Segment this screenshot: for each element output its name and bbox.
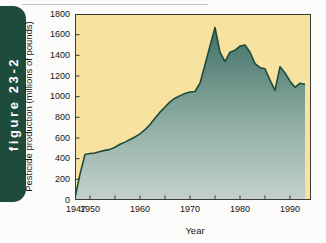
x-axis-title: Year xyxy=(75,225,315,236)
y-tick-label: 1600 xyxy=(36,30,70,39)
x-tick-label: 1950 xyxy=(80,204,100,214)
x-tick-label: 1970 xyxy=(180,204,200,214)
y-tick-label: 1800 xyxy=(36,10,70,19)
figure-container: figure 23-2 Pesticide production (millio… xyxy=(0,0,326,243)
figure-tab-label: figure 23-2 xyxy=(6,57,21,151)
y-tick-label: 1200 xyxy=(36,72,70,81)
chart-svg xyxy=(75,14,311,200)
plot-area xyxy=(75,14,311,200)
y-tick-label: 200 xyxy=(36,175,70,184)
y-tick-label: 1400 xyxy=(36,51,70,60)
y-axis-title: Pesticide production (millions of pounds… xyxy=(23,8,34,206)
x-tick-label: 1960 xyxy=(130,204,150,214)
y-tick-label: 400 xyxy=(36,154,70,163)
y-tick-label: 600 xyxy=(36,134,70,143)
x-axis-tick-labels: 194719501960197019801990 xyxy=(0,204,326,218)
y-tick-label: 1000 xyxy=(36,92,70,101)
x-tick-label: 1980 xyxy=(230,204,250,214)
y-tick-label: 800 xyxy=(36,113,70,122)
x-tick-label: 1990 xyxy=(280,204,300,214)
